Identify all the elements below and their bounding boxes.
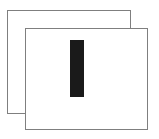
front-rectangle xyxy=(25,28,148,130)
vertical-black-bar xyxy=(70,40,84,97)
figure-canvas xyxy=(0,0,159,139)
